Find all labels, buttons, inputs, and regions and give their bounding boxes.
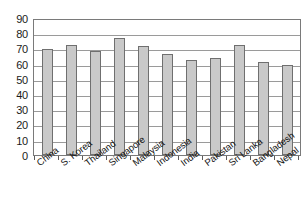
bars-layer	[34, 20, 300, 155]
bar-s-korea	[66, 45, 77, 155]
bar-china	[42, 49, 53, 156]
bar-thailand	[90, 51, 101, 155]
y-axis-tick-label: 20	[2, 120, 28, 131]
y-axis-tick-label: 50	[2, 75, 28, 86]
bar-chart-figure: 90 80 70 60 50 40 30 20 10 0	[0, 0, 307, 218]
bar-indonesia	[162, 54, 173, 155]
y-axis-tick-label: 0	[2, 151, 28, 162]
bar-pakistan	[210, 58, 221, 155]
bar-singapore	[114, 38, 125, 155]
y-axis-tick-label: 90	[2, 14, 28, 25]
y-axis-tick-label: 40	[2, 90, 28, 101]
plot-area	[33, 19, 301, 156]
x-axis-category-labels: China S. Korea Thailand Singapore Malays…	[33, 160, 307, 218]
y-axis-tick-label: 60	[2, 60, 28, 71]
y-axis-tick-label: 80	[2, 29, 28, 40]
y-axis-tick-labels: 90 80 70 60 50 40 30 20 10 0	[2, 0, 28, 218]
y-axis-tick-label: 70	[2, 44, 28, 55]
bar-sri-lanka	[234, 45, 245, 155]
y-axis-tick-label: 10	[2, 136, 28, 147]
y-axis-tick-label: 30	[2, 105, 28, 116]
